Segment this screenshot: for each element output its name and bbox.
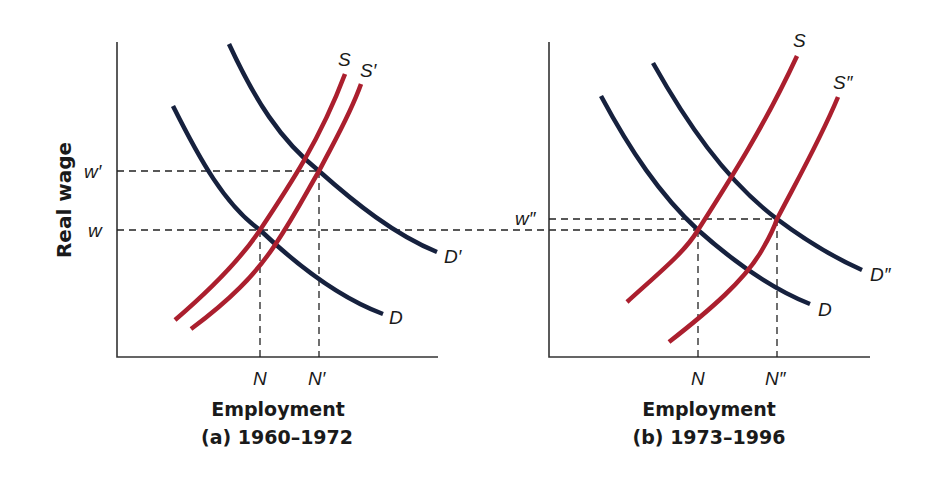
panel-a-n-label: N bbox=[253, 368, 267, 389]
panel-a-x-axis-label: Employment bbox=[211, 398, 345, 420]
panel-a-w-label: w bbox=[88, 220, 103, 241]
y-axis-label: Real wage bbox=[52, 142, 76, 258]
panel-a-caption: (a) 1960–1972 bbox=[201, 426, 353, 448]
panel-a-d-label: D bbox=[389, 307, 403, 328]
panel-b-w-double-prime-label: w″ bbox=[515, 208, 537, 229]
panel-a-s-label: S bbox=[338, 49, 351, 70]
panel-a-d-prime-label: D′ bbox=[444, 246, 463, 267]
panel-b: w″ N N″ S S″ D D″ Employment (b) 1973–19… bbox=[515, 30, 892, 448]
panel-b-s-double-prime-label: S″ bbox=[833, 72, 854, 93]
panel-b-n-double-prime-label: N″ bbox=[765, 368, 787, 389]
labor-market-figure: Real wage w′ w N N′ S S′ D D′ Employment… bbox=[0, 0, 942, 483]
panel-a-n-prime-label: N′ bbox=[308, 368, 327, 389]
panel-b-d-label: D bbox=[818, 299, 832, 320]
panel-a-s-prime-label: S′ bbox=[360, 60, 378, 81]
panel-b-demand-d bbox=[601, 96, 810, 304]
panel-a-w-prime-label: w′ bbox=[84, 161, 103, 182]
panel-b-demand-d-double-prime bbox=[653, 63, 862, 270]
panel-b-d-double-prime-label: D″ bbox=[870, 264, 892, 285]
panel-b-s-label: S bbox=[793, 30, 806, 51]
panel-b-caption: (b) 1973–1996 bbox=[633, 426, 786, 448]
panel-b-x-axis-label: Employment bbox=[642, 398, 776, 420]
panel-b-n-label: N bbox=[691, 368, 705, 389]
panel-a-demand-d bbox=[173, 106, 383, 314]
